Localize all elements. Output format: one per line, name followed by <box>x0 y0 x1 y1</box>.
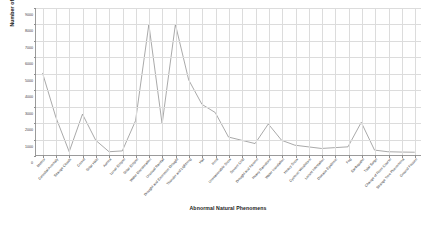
y-tick-label: 7000 <box>25 47 33 51</box>
vertical-gridline <box>362 8 363 155</box>
vertical-gridline <box>109 8 110 155</box>
vertical-gridline <box>349 8 350 155</box>
y-tick-label: 1000 <box>25 146 33 150</box>
vertical-gridline <box>162 8 163 155</box>
y-tick-label: 3000 <box>25 113 33 117</box>
y-tick-mark <box>34 74 37 75</box>
x-axis-title: Abnormal Natural Phenomens <box>35 205 421 211</box>
vertical-gridline <box>229 8 230 155</box>
y-tick-mark <box>34 90 37 91</box>
vertical-gridline <box>389 8 390 155</box>
y-tick-label: 2000 <box>25 129 33 133</box>
y-tick-mark <box>34 156 37 157</box>
vertical-gridline <box>123 8 124 155</box>
vertical-gridline <box>282 8 283 155</box>
vertical-gridline <box>96 8 97 155</box>
y-tick-label: 6000 <box>25 64 33 68</box>
vertical-gridline <box>256 8 257 155</box>
vertical-gridline <box>375 8 376 155</box>
vertical-gridline <box>296 8 297 155</box>
vertical-gridline <box>216 8 217 155</box>
y-tick-mark <box>34 123 37 124</box>
vertical-gridline <box>176 8 177 155</box>
vertical-gridline <box>269 8 270 155</box>
vertical-gridline <box>149 8 150 155</box>
y-tick-label: 9000 <box>25 14 33 18</box>
y-tick-mark <box>34 57 37 58</box>
vertical-gridline <box>335 8 336 155</box>
vertical-gridline <box>309 8 310 155</box>
y-tick-mark <box>34 107 37 108</box>
vertical-gridline <box>415 8 416 155</box>
y-axis-title: Number of Occurrences <box>9 0 15 44</box>
vertical-gridline <box>43 8 44 155</box>
y-tick-label: 0 <box>31 162 33 166</box>
y-tick-mark <box>34 41 37 42</box>
y-tick-label: 4000 <box>25 96 33 100</box>
vertical-gridline <box>402 8 403 155</box>
y-tick-mark <box>34 8 37 9</box>
y-tick-mark <box>34 140 37 141</box>
plot-area <box>35 8 421 156</box>
vertical-gridline <box>242 8 243 155</box>
x-axis-tick-labels: MeteorCelestial AnomalyStrange CloudsCom… <box>35 158 421 204</box>
vertical-gridline <box>189 8 190 155</box>
y-axis-tick-labels: 0100020003000400050006000700080009000 <box>18 8 34 156</box>
vertical-gridline <box>322 8 323 155</box>
vertical-gridline <box>83 8 84 155</box>
vertical-gridline <box>69 8 70 155</box>
line-chart: Number of Occurrences 010002000300040005… <box>0 0 447 226</box>
vertical-gridline <box>56 8 57 155</box>
y-tick-label: 8000 <box>25 31 33 35</box>
y-tick-mark <box>34 24 37 25</box>
vertical-gridline <box>136 8 137 155</box>
y-tick-label: 5000 <box>25 80 33 84</box>
vertical-gridline <box>202 8 203 155</box>
